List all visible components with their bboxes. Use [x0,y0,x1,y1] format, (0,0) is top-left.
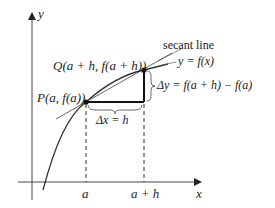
delta-x-label: Δx = h [96,114,128,126]
tick-label-a: a [82,187,89,200]
delta-y-label: Δy = f(a + h) − f(a) [157,79,252,91]
x-axis-label: x [196,187,202,200]
curve-label: y = f(x) [178,55,214,67]
secant-line-label: secant line [163,39,214,51]
point-q-label: Q(a + h, f(a + h)) [53,59,146,72]
curve-f [43,64,168,190]
y-axis-label: y [38,7,44,20]
delta-y-brace [147,71,155,101]
point-p-label: P(a, f(a)) [37,91,85,104]
curve-pointer [162,62,176,65]
secant-line-diagram: y x Q(a + h, f(a + h)) P(a, f(a)) secant… [0,0,275,208]
tick-label-a-plus-h: a + h [131,187,159,200]
